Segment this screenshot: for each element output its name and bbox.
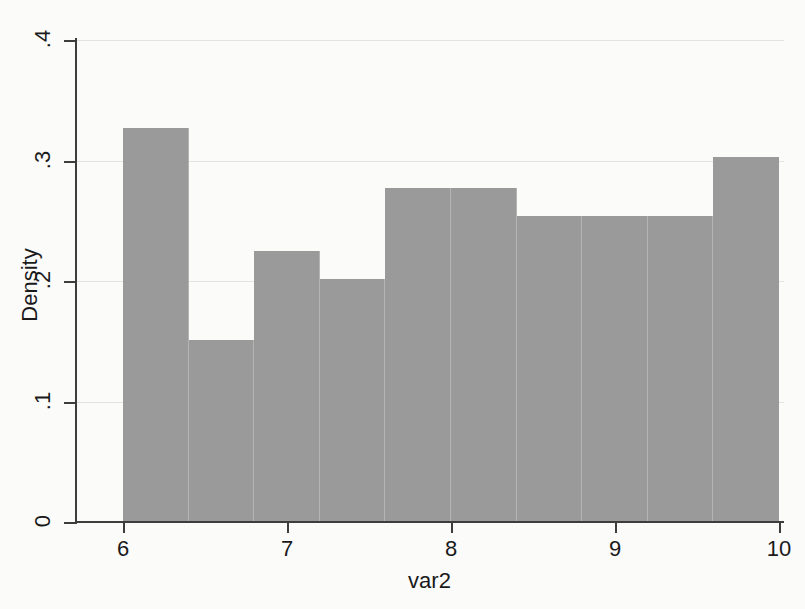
y-tick-mark	[64, 40, 76, 42]
y-tick-mark	[64, 281, 76, 283]
x-tick-label: 7	[257, 536, 317, 562]
y-axis-title: Density	[17, 185, 43, 385]
histogram-bar	[123, 128, 189, 522]
x-axis-line	[75, 521, 784, 523]
y-tick-mark	[64, 402, 76, 404]
y-tick-label: .1	[30, 384, 56, 418]
x-tick-mark	[287, 522, 289, 533]
histogram-bar	[189, 340, 255, 522]
histogram-figure: 0.1.2.3.4 678910 Density var2	[0, 0, 805, 609]
histogram-bars	[0, 0, 805, 609]
histogram-bar	[320, 279, 386, 522]
y-tick-label: .3	[30, 143, 56, 177]
histogram-bar	[385, 188, 451, 522]
x-tick-mark	[615, 522, 617, 533]
histogram-bar	[451, 188, 517, 522]
histogram-bar	[648, 216, 714, 522]
y-tick-mark	[64, 161, 76, 163]
x-tick-mark	[779, 522, 781, 533]
histogram-bar	[713, 157, 779, 522]
histogram-bar	[517, 216, 583, 522]
y-tick-label: .4	[30, 22, 56, 56]
plot-area: 0.1.2.3.4 678910 Density var2	[0, 0, 805, 609]
y-tick-mark	[64, 522, 76, 524]
x-tick-label: 9	[585, 536, 645, 562]
x-tick-label: 8	[421, 536, 481, 562]
x-tick-label: 10	[749, 536, 805, 562]
x-tick-label: 6	[93, 536, 153, 562]
x-tick-mark	[123, 522, 125, 533]
histogram-bar	[582, 216, 648, 522]
histogram-bar	[254, 251, 320, 522]
y-tick-label: 0	[30, 504, 56, 538]
x-axis-title: var2	[75, 568, 784, 594]
x-tick-mark	[451, 522, 453, 533]
